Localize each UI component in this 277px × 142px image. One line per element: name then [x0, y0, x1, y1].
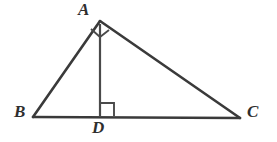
vertex-label-c: C: [247, 103, 258, 120]
geometry-canvas: [0, 0, 277, 142]
vertex-label-b: B: [14, 103, 25, 120]
vertex-label-d: D: [92, 119, 104, 136]
figure-background: [0, 0, 277, 142]
geometry-figure: A B C D: [0, 0, 277, 142]
vertex-label-a: A: [78, 1, 89, 18]
segment-bc: [33, 117, 240, 118]
